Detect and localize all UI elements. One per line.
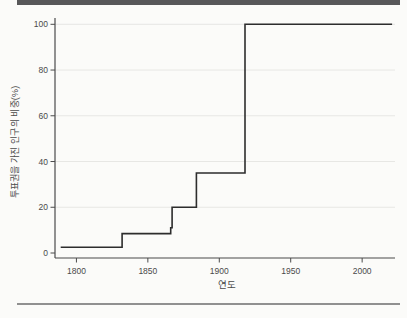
x-tick-label-1900: 1900 xyxy=(210,266,229,276)
figure-panel: 02040608010018001850190019502000 투표권을 가진… xyxy=(0,0,407,318)
x-axis-title: 연도 xyxy=(218,277,236,291)
y-tick-label-0: 0 xyxy=(43,248,48,258)
y-tick-label-60: 60 xyxy=(39,111,49,121)
x-tick-label-1850: 1850 xyxy=(138,266,157,276)
x-tick-label-2000: 2000 xyxy=(353,266,372,276)
y-tick-label-80: 80 xyxy=(39,65,49,75)
voting-rights-step-chart: 02040608010018001850190019502000 투표권을 가진… xyxy=(0,0,407,318)
y-axis-title: 투표권을 가진 인구의 비중(%) xyxy=(8,86,21,199)
y-tick-label-100: 100 xyxy=(34,19,48,29)
series-line-0 xyxy=(61,24,392,247)
x-tick-label-1950: 1950 xyxy=(281,266,300,276)
x-tick-label-1800: 1800 xyxy=(67,266,86,276)
y-tick-label-20: 20 xyxy=(39,202,49,212)
step-line-chart-canvas: 02040608010018001850190019502000 xyxy=(0,0,407,318)
y-tick-label-40: 40 xyxy=(39,157,49,167)
bottom-rule xyxy=(17,303,400,305)
